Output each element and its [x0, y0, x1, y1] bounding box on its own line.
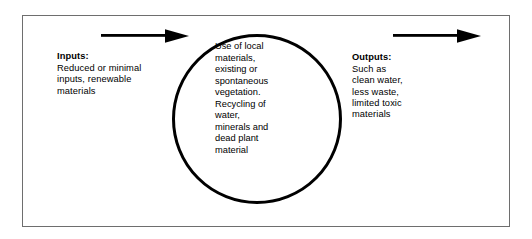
inputs-body: Reduced or minimal inputs, renewable mat… [57, 63, 175, 97]
central-process-text: Use of local materials, existing or spon… [215, 41, 289, 156]
inputs-label-block: Inputs:Reduced or minimal inputs, renewa… [57, 40, 175, 108]
outputs-body: Such as clean water, less waste, limited… [352, 64, 432, 121]
outputs-heading: Outputs: [352, 52, 432, 63]
inputs-heading: Inputs: [57, 51, 175, 62]
diagram-canvas: Inputs:Reduced or minimal inputs, renewa… [0, 0, 532, 239]
outputs-label-block: Outputs:Such as clean water, less waste,… [352, 41, 432, 132]
